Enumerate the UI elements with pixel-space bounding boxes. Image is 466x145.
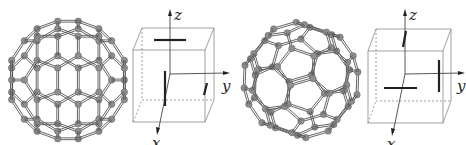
fullerene-molecule-right [241,19,361,141]
axis-cube-right: zyx [368,6,466,145]
axis-label-y: y [221,77,231,95]
axis-label-y: y [456,77,466,95]
axis-cube-left: zyx [133,6,231,145]
axis-label-x: x [387,135,396,145]
axis-label-z: z [173,6,182,24]
axis-label-x: x [152,134,161,145]
axis-label-z: z [408,6,417,24]
figure-canvas: zyx zyx [0,0,466,145]
fullerene-molecule-left [8,18,127,142]
